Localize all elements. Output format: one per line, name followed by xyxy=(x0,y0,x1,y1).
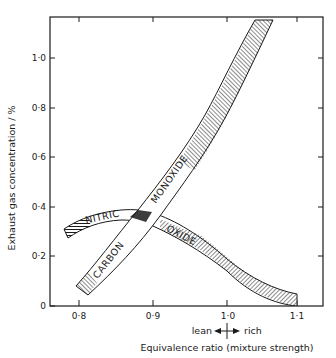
y-tick-0.8: 0·8 xyxy=(32,103,47,113)
y-axis-title: Exhaust gas concentration / % xyxy=(6,105,17,250)
lean-rich-indicator: lean rich xyxy=(192,323,262,339)
arrow-left-icon xyxy=(214,328,221,334)
chart: 0 0·2 0·4 0·6 0·8 1·0 0·8 0·9 1·0 1·1 Ex… xyxy=(0,0,336,358)
y-tick-0: 0 xyxy=(40,301,46,311)
y-tick-0.6: 0·6 xyxy=(32,152,47,162)
x-tick-1.1: 1·1 xyxy=(290,311,304,321)
lean-label: lean xyxy=(192,325,212,336)
x-axis-title: Equivalence ratio (mixture strength) xyxy=(141,342,314,353)
x-tick-0.8: 0·8 xyxy=(72,311,87,321)
x-tick-1.0: 1·0 xyxy=(221,311,236,321)
y-tick-0.2: 0·2 xyxy=(32,251,46,261)
y-tick-1.0: 1·0 xyxy=(32,53,47,63)
arrow-right-icon xyxy=(233,328,240,334)
rich-label: rich xyxy=(244,325,262,336)
y-tick-labels: 0 0·2 0·4 0·6 0·8 1·0 xyxy=(32,53,47,311)
y-tick-0.4: 0·4 xyxy=(32,202,47,212)
x-tick-labels: 0·8 0·9 1·0 1·1 xyxy=(72,311,304,321)
x-tick-0.9: 0·9 xyxy=(146,311,161,321)
